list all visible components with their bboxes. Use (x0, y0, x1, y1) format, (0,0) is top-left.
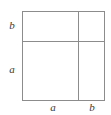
left-segment-label-top: b (4, 20, 20, 31)
left-segment-label-bottom: a (4, 64, 20, 75)
bottom-segment-label-left: a (42, 102, 64, 113)
square-partition-diagram: b a a b (0, 0, 111, 115)
horizontal-divider-line (22, 41, 105, 42)
vertical-divider-line (78, 11, 79, 101)
outer-square (22, 11, 105, 101)
bottom-segment-label-right: b (81, 102, 103, 113)
